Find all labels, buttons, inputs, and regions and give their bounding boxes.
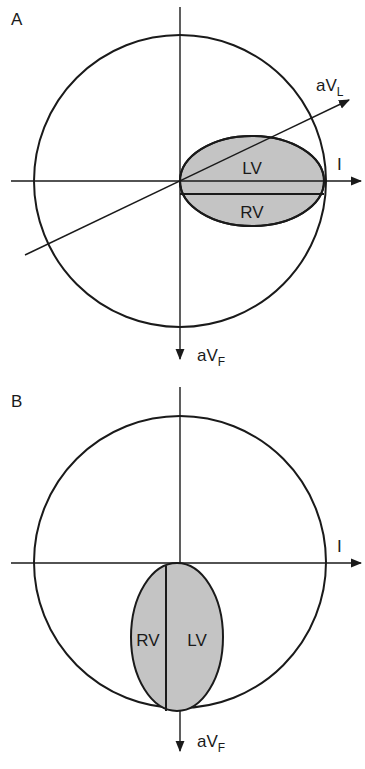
panel-a: A LV RV I aVL aVF — [11, 7, 361, 369]
ecg-axis-diagram: A LV RV I aVL aVF B RV — [0, 0, 365, 769]
panel-a-label: A — [11, 10, 23, 29]
panel-b-lv-label: LV — [187, 631, 207, 650]
panel-b: B RV LV I aVF — [11, 387, 361, 755]
panel-a-lv-label: LV — [242, 159, 262, 178]
panel-a-avf-label: aVF — [197, 346, 225, 369]
panel-b-avf-label: aVF — [197, 732, 225, 755]
panel-b-lead-i-label: I — [337, 537, 342, 556]
panel-a-avl-label: aVL — [316, 76, 344, 99]
panel-a-rv-label: RV — [240, 203, 264, 222]
panel-b-label: B — [11, 392, 22, 411]
panel-b-rv-label: RV — [136, 631, 160, 650]
panel-a-lead-i-label: I — [337, 155, 342, 174]
